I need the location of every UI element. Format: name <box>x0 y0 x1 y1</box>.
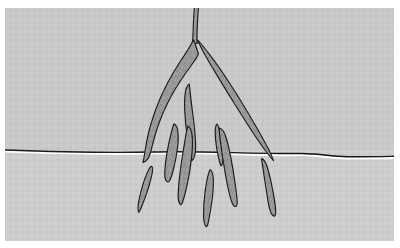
figure-container: Stippled branching intrusion / root stru… <box>0 0 400 248</box>
paper-grain-overlay <box>5 8 394 241</box>
panel-content <box>5 6 394 241</box>
figure-illustration <box>0 0 400 248</box>
